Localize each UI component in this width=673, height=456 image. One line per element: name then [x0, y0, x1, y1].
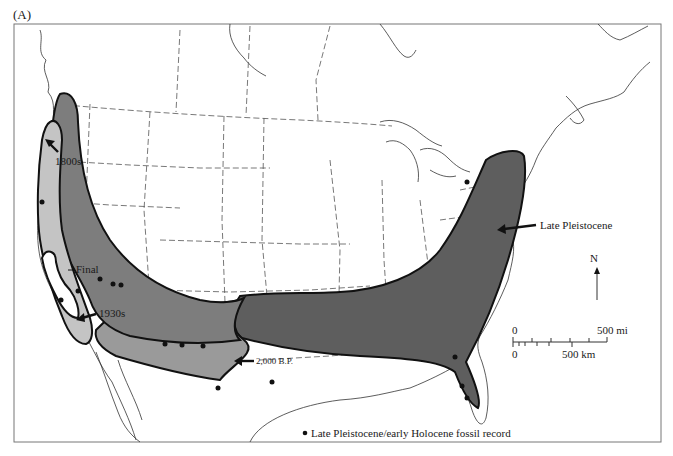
fossil-point [40, 200, 45, 205]
fossil-point [59, 298, 64, 303]
scale-km-end: 500 km [562, 348, 596, 360]
fossil-point [119, 283, 124, 288]
fossil-point [201, 344, 206, 349]
us-canada-border [56, 104, 392, 126]
label-late-pleistocene: Late Pleistocene [540, 219, 613, 231]
label-1800s: 1800s [55, 155, 81, 167]
legend-dot-icon [303, 431, 308, 436]
range-late-pleistocene [231, 151, 525, 408]
scale-km-zero: 0 [512, 348, 518, 360]
scale-bar: 0 500 mi 0 500 km [512, 324, 628, 360]
fossil-point [465, 180, 470, 185]
fossil-point [460, 384, 465, 389]
north-arrow-icon [594, 267, 600, 274]
scale-mi-zero: 0 [512, 324, 518, 336]
map-frame [14, 24, 661, 442]
fossil-point [98, 277, 103, 282]
legend-text: Late Pleistocene/early Holocene fossil r… [311, 427, 511, 439]
label-final: Final [76, 263, 99, 275]
fossil-point [76, 289, 81, 294]
label-1930s: 1930s [99, 307, 125, 319]
fossil-point [270, 380, 275, 385]
north-arrow: N [590, 252, 600, 300]
great-lakes [380, 120, 470, 182]
legend: Late Pleistocene/early Holocene fossil r… [303, 427, 512, 439]
range-map: 1800s Final 1930s 2,000 B.P. Late Pleist… [0, 0, 673, 456]
north-label: N [590, 252, 598, 264]
fossil-point [216, 386, 221, 391]
fossil-point [163, 342, 168, 347]
fossil-point [180, 343, 185, 348]
hudson-bay-coastline [230, 24, 416, 76]
scale-mi-end: 500 mi [597, 324, 628, 336]
fossil-point [111, 282, 116, 287]
fossil-point [465, 396, 470, 401]
fossil-point [453, 355, 458, 360]
label-2000bp: 2,000 B.P. [256, 356, 293, 366]
